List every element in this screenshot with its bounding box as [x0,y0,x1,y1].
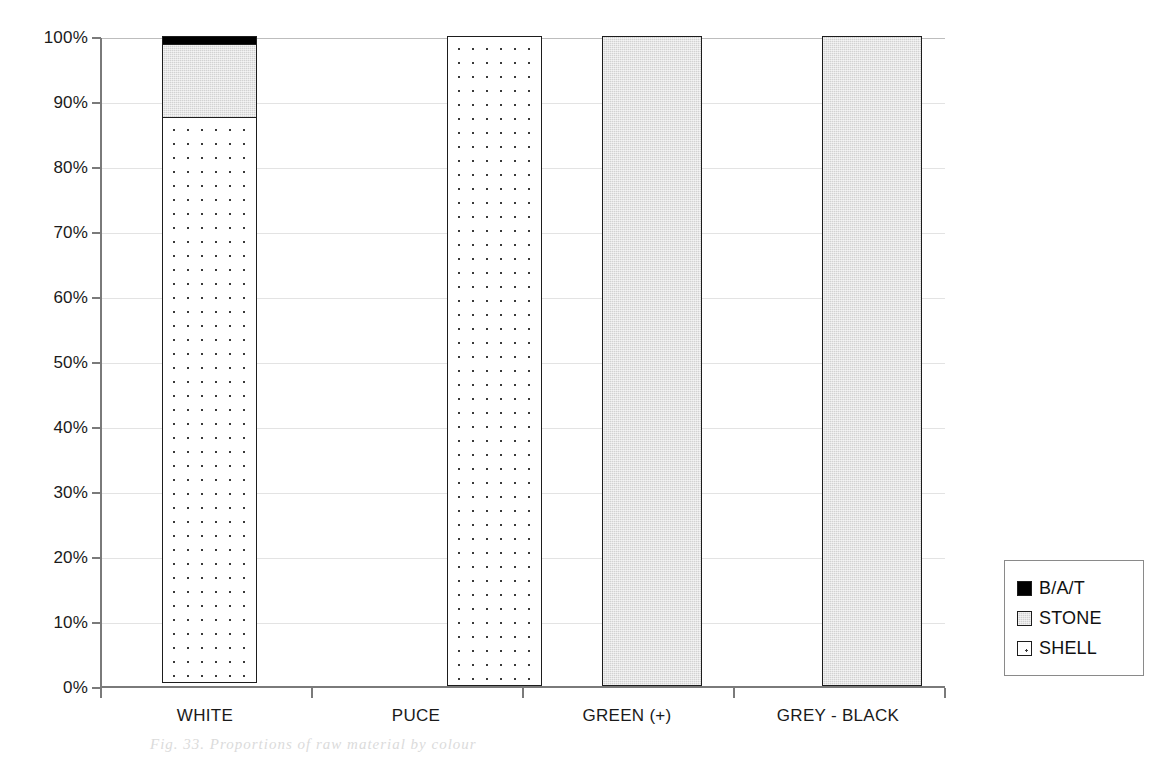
bar-segment-stone[interactable] [822,36,922,686]
x-axis-label-puce: PUCE [301,706,531,726]
y-tick-label: 10% [0,614,88,631]
y-tick-label: 100% [0,29,88,46]
y-tick-label: 0% [0,679,88,696]
bar-segment-stone[interactable] [602,36,702,686]
bar-segment-shell[interactable] [162,117,257,683]
y-tick-label: 30% [0,484,88,501]
legend-swatch-icon [1017,641,1032,656]
legend-item-shell[interactable]: SHELL [1017,633,1133,663]
bar-green[interactable] [602,36,702,686]
bar-white[interactable] [162,36,257,686]
y-tick-label: 20% [0,549,88,566]
x-tick-mark [733,688,735,698]
x-axis-label-green: GREEN (+) [512,706,742,726]
y-tick-label: 80% [0,159,88,176]
bar-puce[interactable] [447,36,542,686]
legend-swatch-icon [1017,581,1032,596]
legend-swatch-icon [1017,611,1032,626]
chart-legend: B/A/T STONE SHELL [1004,560,1144,676]
bar-segment-stone[interactable] [162,44,257,119]
scan-bleed-text: Fig. 33. Proportions of raw material by … [150,736,477,753]
legend-label: SHELL [1039,639,1097,657]
x-axis-label-grey-black: GREY - BLACK [723,706,953,726]
bar-grey-black[interactable] [822,36,922,686]
legend-item-stone[interactable]: STONE [1017,603,1133,633]
y-tick-label: 60% [0,289,88,306]
stacked-bar-chart: 100% 90% 80% 70% 60% 50% 40% 30% 20% 10%… [0,0,1167,764]
y-tick-label: 50% [0,354,88,371]
x-tick-mark [100,688,102,698]
y-tick-label: 90% [0,94,88,111]
x-tick-mark [311,688,313,698]
legend-item-bat[interactable]: B/A/T [1017,573,1133,603]
plot-area [100,38,945,688]
y-tick-label: 70% [0,224,88,241]
legend-label: B/A/T [1039,579,1085,597]
x-tick-mark [522,688,524,698]
y-tick-label: 40% [0,419,88,436]
x-tick-mark [944,688,946,698]
bar-segment-shell[interactable] [447,36,542,686]
x-axis-label-white: WHITE [90,706,320,726]
legend-label: STONE [1039,609,1102,627]
